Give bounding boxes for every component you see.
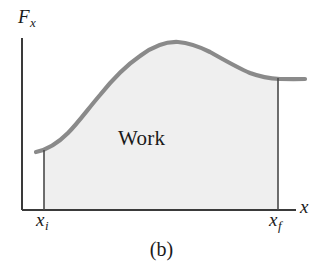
tick-xi-symbol: x: [36, 209, 44, 230]
tick-label-final-position: xf: [269, 209, 282, 234]
tick-xf-subscript: f: [278, 218, 282, 233]
y-axis-label-symbol: F: [18, 6, 30, 27]
y-axis-label-subscript: x: [30, 15, 36, 30]
work-area-figure: Fx x xi xf Work (b): [0, 0, 323, 272]
tick-xf-symbol: x: [269, 209, 277, 230]
work-area-label: Work: [118, 126, 165, 151]
x-axis-label-symbol: x: [300, 196, 308, 217]
tick-label-initial-position: xi: [36, 209, 49, 234]
y-axis-label: Fx: [18, 6, 36, 31]
x-axis-label: x: [300, 196, 308, 218]
tick-xi-subscript: i: [45, 218, 49, 233]
figure-caption: (b): [0, 238, 323, 261]
